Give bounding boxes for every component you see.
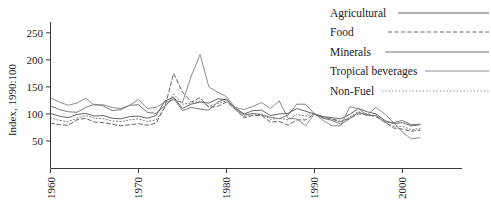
series-line-non-fuel xyxy=(51,94,421,130)
y-tick-label: 100 xyxy=(27,108,44,120)
legend-item-minerals[interactable]: Minerals xyxy=(330,46,489,58)
y-axis-tick-labels: 50100150200250 xyxy=(27,27,44,147)
chart-legend: AgriculturalFoodMineralsTropical beverag… xyxy=(330,7,489,97)
y-tick-label: 200 xyxy=(27,54,44,66)
legend-label: Minerals xyxy=(330,46,371,58)
x-axis-tick-marks xyxy=(51,169,403,174)
legend-item-food[interactable]: Food xyxy=(330,26,489,38)
x-tick-label: 1960 xyxy=(45,177,57,200)
commodity-price-index-chart: 50100150200250 Index, 1990:100 196019701… xyxy=(0,0,491,209)
x-tick-label: 2000 xyxy=(396,177,408,200)
x-axis-tick-labels: 19601970198019902000 xyxy=(45,177,409,200)
y-tick-label: 250 xyxy=(27,27,44,39)
y-tick-label: 150 xyxy=(27,81,44,93)
y-axis-title: Index, 1990:100 xyxy=(6,63,18,136)
y-axis-tick-marks xyxy=(46,33,51,141)
legend-label: Agricultural xyxy=(330,7,386,20)
series-line-minerals xyxy=(51,98,421,125)
legend-item-non-fuel[interactable]: Non-Fuel xyxy=(330,85,489,97)
series-line-agricultural xyxy=(51,97,421,126)
y-tick-label: 50 xyxy=(32,135,44,147)
legend-label: Food xyxy=(330,26,354,38)
legend-label: Non-Fuel xyxy=(330,85,374,97)
x-axis-group: 19601970198019902000 xyxy=(45,169,463,200)
x-tick-label: 1970 xyxy=(132,177,144,200)
legend-item-agricultural[interactable]: Agricultural xyxy=(330,7,489,20)
x-tick-label: 1980 xyxy=(220,177,232,200)
x-tick-label: 1990 xyxy=(308,177,320,200)
legend-label: Tropical beverages xyxy=(330,65,418,78)
legend-item-tropical-beverages[interactable]: Tropical beverages xyxy=(330,65,489,78)
chart-container: 50100150200250 Index, 1990:100 196019701… xyxy=(0,0,491,209)
y-axis-group: 50100150200250 Index, 1990:100 xyxy=(6,22,51,168)
series-line-food xyxy=(51,73,421,131)
